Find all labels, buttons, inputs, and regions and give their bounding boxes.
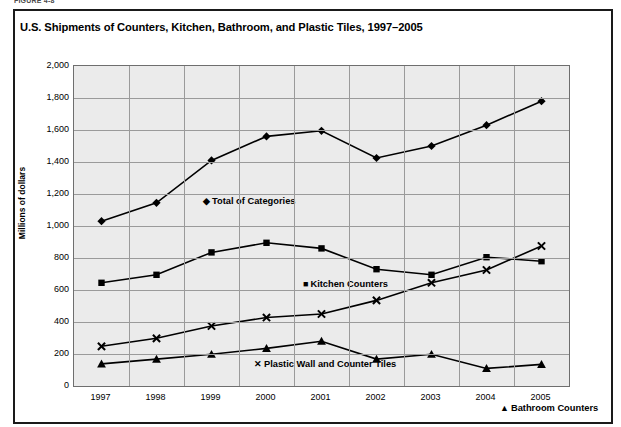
square-marker-icon: ■ bbox=[303, 279, 308, 290]
x-marker-icon: ✕ bbox=[254, 359, 262, 370]
y-axis-tick-label: 400 bbox=[23, 317, 69, 326]
x-axis-tick-label: 2000 bbox=[241, 392, 291, 402]
horizontal-gridline bbox=[74, 226, 569, 227]
x-axis-tick-label: 2001 bbox=[296, 392, 346, 402]
data-point-marker bbox=[97, 217, 105, 225]
data-point-marker bbox=[98, 280, 104, 286]
series-label-total-of-categories: ◆Total of Categories bbox=[203, 196, 296, 207]
y-axis-tick-label: 1,800 bbox=[23, 93, 69, 102]
data-point-marker bbox=[318, 245, 324, 251]
horizontal-gridline bbox=[74, 322, 569, 323]
series-label-text: Total of Categories bbox=[212, 196, 296, 206]
vertical-gridline bbox=[184, 66, 185, 386]
y-axis-tick-label: 1,200 bbox=[23, 189, 69, 198]
y-axis-tick-label: 200 bbox=[23, 349, 69, 358]
y-axis-tick-label: 600 bbox=[23, 285, 69, 294]
y-axis-tick-label: 1,400 bbox=[23, 157, 69, 166]
x-axis-tick-label: 2003 bbox=[406, 392, 456, 402]
vertical-gridline bbox=[129, 66, 130, 386]
horizontal-gridline bbox=[74, 354, 569, 355]
y-axis-tick-label: 0 bbox=[23, 381, 69, 390]
data-point-marker bbox=[317, 337, 326, 345]
data-point-marker bbox=[153, 272, 159, 278]
vertical-gridline bbox=[294, 66, 295, 386]
series-label-plastic-wall-and-counter-tiles: ✕Plastic Wall and Counter Tiles bbox=[254, 359, 396, 370]
y-axis-tick-label: 1,000 bbox=[23, 221, 69, 230]
horizontal-gridline bbox=[74, 194, 569, 195]
y-axis-tick-label: 1,600 bbox=[23, 125, 69, 134]
vertical-gridline bbox=[404, 66, 405, 386]
figure-container: FIGURE 4-8 U.S. Shipments of Counters, K… bbox=[0, 0, 621, 427]
series-label-kitchen-counters: ■Kitchen Counters bbox=[303, 279, 388, 290]
horizontal-gridline bbox=[74, 258, 569, 259]
data-point-marker bbox=[482, 121, 490, 129]
chart-title: U.S. Shipments of Counters, Kitchen, Bat… bbox=[20, 21, 423, 33]
y-axis-tick-labels: 2,0001,8001,6001,4001,2001,0008006004002… bbox=[15, 65, 69, 385]
vertical-gridline bbox=[459, 66, 460, 386]
data-point-marker bbox=[538, 242, 545, 249]
y-axis-tick-label: 2,000 bbox=[23, 61, 69, 70]
horizontal-gridline bbox=[74, 290, 569, 291]
y-axis-tick-label: 800 bbox=[23, 253, 69, 262]
data-point-marker bbox=[372, 154, 380, 162]
x-axis-tick-label: 2002 bbox=[351, 392, 401, 402]
plot-area: ◆Total of Categories ■Kitchen Counters ✕… bbox=[73, 65, 570, 387]
diamond-marker-icon: ◆ bbox=[203, 196, 210, 207]
figure-number-label: FIGURE 4-8 bbox=[14, 0, 55, 6]
x-axis-tick-label: 1997 bbox=[76, 392, 126, 402]
data-point-marker bbox=[263, 240, 269, 246]
data-point-marker bbox=[428, 272, 434, 278]
x-axis-tick-label: 1998 bbox=[131, 392, 181, 402]
horizontal-gridline bbox=[74, 162, 569, 163]
x-axis-tick-label: 1999 bbox=[186, 392, 236, 402]
x-axis-tick-labels: 199719981999200020012002200320042005 bbox=[73, 392, 568, 406]
x-axis-tick-label: 2005 bbox=[516, 392, 566, 402]
horizontal-gridline bbox=[74, 130, 569, 131]
data-point-marker bbox=[427, 142, 435, 150]
data-point-marker bbox=[373, 266, 379, 272]
x-axis-tick-label: 2004 bbox=[461, 392, 511, 402]
vertical-gridline bbox=[514, 66, 515, 386]
vertical-gridline bbox=[349, 66, 350, 386]
data-point-marker bbox=[208, 249, 214, 255]
series-label-text: Plastic Wall and Counter Tiles bbox=[264, 359, 396, 369]
vertical-gridline bbox=[239, 66, 240, 386]
data-point-marker bbox=[262, 132, 270, 140]
horizontal-gridline bbox=[74, 98, 569, 99]
